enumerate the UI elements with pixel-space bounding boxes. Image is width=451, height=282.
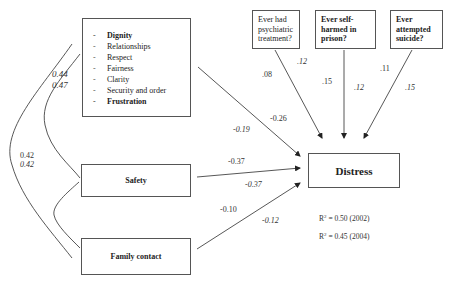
factor-item-frustration: -Frustration [93,96,166,107]
coef-psychiatric-2004: .12 [297,57,307,66]
arrow-safety-distress [197,168,300,177]
safety-label: Safety [125,176,146,185]
r-value: = 0.45 (2004) [327,232,370,241]
arrow-dignity-distress [198,67,300,156]
corr-dignity-safety-2002: 0.44 [52,70,68,79]
psychiatric-label: Ever had psychiatric treatment? [258,15,298,44]
corr-dignity-safety-2004: 0.47 [52,81,68,90]
psychiatric-treatment-box: Ever had psychiatric treatment? [252,10,300,49]
factor-item-clarity: -Clarity [93,74,166,85]
attempted-suicide-box: Ever attempted suicide? [390,10,443,49]
distress-label: Distress [335,165,372,177]
factor-item-respect: -Respect [93,52,166,63]
dash: - [93,85,107,96]
factor-label: Frustration [107,97,147,106]
factor-label: Clarity [107,75,129,84]
r-value: = 0.50 (2002) [327,214,370,223]
coef-family-2004: -0.12 [262,216,279,225]
r-squared-2004: R2 = 0.45 (2004) [319,232,370,241]
safety-box: Safety [81,164,191,197]
coef-selfharm-2002: .15 [322,77,332,86]
factor-item-fairness: -Fairness [93,63,166,74]
corr-dignity-family-2004: 0.42 [20,160,34,169]
coef-dignity-2002: -0.26 [270,114,287,123]
dash: - [93,41,107,52]
dash: - [93,30,107,41]
factor-item-security: -Security and order [93,85,166,96]
dash: - [93,74,107,85]
suicide-label: Ever attempted suicide? [396,15,441,44]
path-diagram: -Dignity -Relationships -Respect -Fairne… [0,0,451,282]
factor-item-dignity: -Dignity [93,30,166,41]
r-squared-2002: R2 = 0.50 (2002) [319,214,370,223]
factor-label: Security and order [107,86,166,95]
coef-family-2002: -0.10 [220,205,237,214]
self-harm-box: Ever self-harmed in prison? [315,10,376,49]
dash: - [93,96,107,107]
factor-label: Relationships [107,42,151,51]
coef-safety-2004: -0.37 [245,180,262,189]
coef-dignity-2004: -0.19 [233,125,250,134]
dash: - [93,63,107,74]
distress-box: Distress [308,153,400,188]
coef-suicide-2004: .15 [405,83,415,92]
self-harm-label: Ever self-harmed in prison? [321,15,373,44]
correlation-curve-safety-family [54,182,80,248]
factor-label: Fairness [107,64,134,73]
factor-label: Respect [107,53,132,62]
coef-safety-2002: -0.37 [228,157,245,166]
factor-label: Dignity [107,31,132,40]
dignity-factors-box: -Dignity -Relationships -Respect -Fairne… [82,18,191,117]
connector-lines [0,0,451,282]
coef-suicide-2002: .11 [380,64,390,73]
coef-psychiatric-2002: .08 [262,70,272,79]
family-contact-label: Family contact [111,252,162,261]
factor-item-relationships: -Relationships [93,41,166,52]
dignity-factors-list: -Dignity -Relationships -Respect -Fairne… [93,30,166,107]
family-contact-box: Family contact [81,238,191,275]
coef-selfharm-2004: .12 [354,83,364,92]
dash: - [93,52,107,63]
corr-dignity-family-2002: 0.42 [20,151,34,160]
arrow-family-distress [197,183,300,249]
